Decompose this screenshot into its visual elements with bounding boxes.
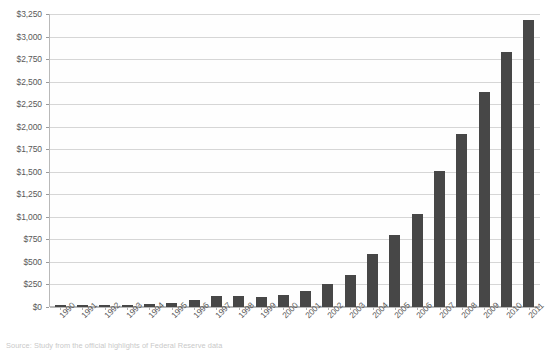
bar — [367, 254, 378, 307]
bar — [479, 92, 490, 307]
bar — [501, 52, 512, 307]
y-axis-tick-label: $2,000 — [17, 122, 42, 132]
bar — [456, 134, 467, 307]
source-caption: Source: Study from the official highligh… — [6, 341, 546, 350]
y-axis-tick-label: $1,750 — [17, 144, 42, 154]
y-axis-tick-label: $2,750 — [17, 54, 42, 64]
y-axis-tick-label: $250 — [23, 279, 42, 289]
bar — [345, 275, 356, 307]
y-axis-tick-label: $1,250 — [17, 189, 42, 199]
bar — [322, 284, 333, 307]
y-axis-tick-label: $3,250 — [17, 9, 42, 19]
bars-layer — [49, 14, 540, 307]
y-axis-tick-label: $2,250 — [17, 99, 42, 109]
y-axis-tick-label: $0 — [33, 302, 42, 312]
y-axis-tick-label: $750 — [23, 234, 42, 244]
y-axis-tick-label: $3,000 — [17, 32, 42, 42]
bar — [412, 214, 423, 307]
y-axis-labels: $3,250$3,000$2,750$2,500$2,250$2,000$1,7… — [0, 0, 46, 349]
bar — [523, 20, 534, 307]
y-axis-tick-label: $1,500 — [17, 167, 42, 177]
y-axis-tick-label: $500 — [23, 257, 42, 267]
bar — [389, 235, 400, 307]
y-axis-tick-label: $1,000 — [17, 212, 42, 222]
bar — [434, 171, 445, 307]
y-axis-tick-label: $2,500 — [17, 77, 42, 87]
